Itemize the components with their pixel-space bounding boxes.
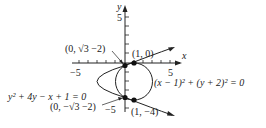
- parabola-arrow-upper-icon: [168, 47, 175, 52]
- point-label-upper-right: (1, 0): [132, 48, 154, 60]
- x-tick-label-neg: −5: [70, 67, 81, 78]
- parabola-arrow-lower-icon: [167, 111, 175, 116]
- point-0-sqrt3-minus-2: [122, 63, 127, 68]
- point-label-upper-left: (0, √3 −2): [65, 43, 105, 55]
- point-0-neg-sqrt3-minus-2: [122, 95, 127, 100]
- circle-equation: (x − 1)² + (y + 2)² = 0: [154, 77, 244, 89]
- y-tick-label-neg: −5: [105, 104, 116, 115]
- point-1-neg4: [131, 97, 136, 102]
- circle-curve: [116, 63, 153, 100]
- diagram-canvas: y x 5 −5 5 −5 (0, √3 −2) (1, 0) (0, −√3 …: [0, 0, 266, 128]
- point-label-lower-right: (1, −4): [131, 106, 158, 118]
- point-label-lower-left: (0, −√3 −2): [50, 101, 96, 113]
- y-tick-label-pos: 5: [117, 12, 122, 23]
- parabola-equation: y² + 4y − x + 1 = 0: [7, 91, 86, 102]
- y-axis-label: y: [116, 1, 122, 12]
- point-1-0: [131, 60, 136, 65]
- x-axis-label: x: [181, 50, 187, 61]
